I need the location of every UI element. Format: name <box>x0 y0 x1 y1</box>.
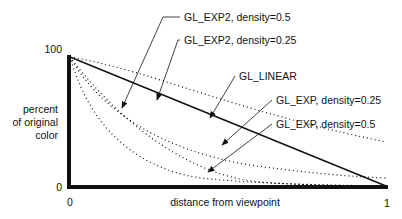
callout-linear <box>210 76 235 118</box>
label-exp-025: GL_EXP, density=0.25 <box>276 94 381 106</box>
label-exp-05: GL_EXP, density=0.5 <box>276 118 375 130</box>
label-exp2-025: GL_EXP2, density=0.25 <box>184 34 297 46</box>
x-tick-0: 0 <box>67 196 73 208</box>
y-axis-label-line1: percent <box>23 103 58 115</box>
label-linear: GL_LINEAR <box>239 70 297 82</box>
y-axis-label-line3: color <box>35 129 58 141</box>
x-tick-1: 1 <box>384 197 390 209</box>
callout-exp2-05 <box>122 17 180 108</box>
y-tick-0: 0 <box>56 181 62 193</box>
callout-exp-05 <box>208 124 272 172</box>
fog-chart: 100 0 0 1 distance from viewpoint percen… <box>0 0 402 219</box>
callout-exp2-025 <box>157 40 180 100</box>
y-tick-100: 100 <box>44 43 62 55</box>
x-axis-label: distance from viewpoint <box>170 196 280 208</box>
y-axis-label-line2: of original <box>12 116 58 128</box>
label-exp2-05: GL_EXP2, density=0.5 <box>184 11 291 23</box>
